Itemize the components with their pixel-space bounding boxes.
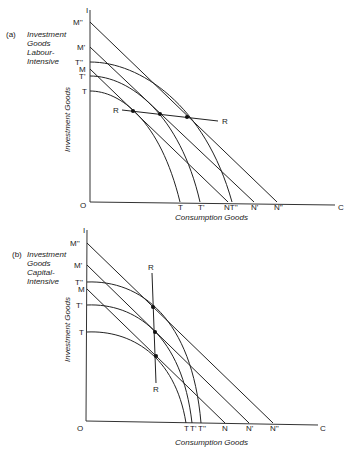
panel-a-tangency-3 xyxy=(185,115,189,119)
panel-b-tangency-3 xyxy=(154,354,158,358)
panel-b-label-M2: M'' xyxy=(70,239,80,248)
panel-a-ray-left-label: R xyxy=(113,106,119,115)
panel-b-label-xN2: N'' xyxy=(270,424,279,433)
panel-a-label-M2: M'' xyxy=(73,18,83,27)
panel-b-label-T0: T xyxy=(79,328,84,337)
panel-b-ray-top-label: R xyxy=(148,263,154,272)
panel-b-caption-3: Capital- xyxy=(27,268,55,277)
panel-b-ray-bottom-label: R xyxy=(153,385,159,394)
panel-b-ray-R xyxy=(152,273,156,383)
panel-b-curve-T0 xyxy=(87,332,186,423)
panel-a-label-xN2: N'' xyxy=(274,203,283,212)
panel-b-label-M1: M' xyxy=(74,261,83,270)
panel-a-ray-right-label: R xyxy=(222,117,228,126)
panel-b-x-end-label: C xyxy=(320,424,326,433)
panel-a-tag: (a) xyxy=(6,30,16,39)
panel-b-origin: O xyxy=(77,424,83,433)
panel-b-label-xT1: T' xyxy=(190,424,197,433)
panel-a-label-T0: T xyxy=(82,87,87,96)
panel-b-tag: (b) xyxy=(12,250,22,259)
panel-a-ray-R xyxy=(122,110,218,121)
panel-b: (b) Investment Goods Capital- Intensive … xyxy=(12,226,326,447)
panel-b-label-xT0: T xyxy=(184,424,189,433)
panel-a-tangency-1 xyxy=(131,109,135,113)
panel-b-y-top-label: I xyxy=(83,226,85,235)
panel-a-curve-T1 xyxy=(90,76,200,202)
panel-b-label-xN1: N' xyxy=(246,424,254,433)
panel-a-label-xT0: T xyxy=(178,203,183,212)
panel-a: (a) Investment Goods Labour- Intensive I… xyxy=(6,6,344,222)
panel-a-label-T1: T' xyxy=(79,72,86,81)
panel-a-caption-4: Intensive xyxy=(27,57,60,66)
panel-b-caption-2: Goods xyxy=(27,259,51,268)
panel-b-curve-T2 xyxy=(87,282,201,423)
panel-a-line-M1N1 xyxy=(90,47,254,202)
panel-b-y-axis-label: Investment Goods xyxy=(63,297,72,362)
panel-b-line-M1N1 xyxy=(87,265,249,423)
panel-a-tangency-2 xyxy=(158,112,162,116)
panel-a-caption-2: Goods xyxy=(27,39,51,48)
panel-b-line-M2N2 xyxy=(87,243,273,423)
diagram-canvas: (a) Investment Goods Labour- Intensive I… xyxy=(0,0,351,462)
panel-b-tangency-2 xyxy=(153,330,157,334)
panel-a-curve-T0 xyxy=(90,91,180,202)
panel-a-origin: O xyxy=(80,201,86,210)
panel-b-tangency-1 xyxy=(151,305,155,309)
panel-a-x-end-label: C xyxy=(338,203,344,212)
panel-b-x-axis-label: Consumption Goods xyxy=(175,438,248,447)
panel-b-caption-1: Investment xyxy=(27,250,67,259)
panel-a-y-top-label: I xyxy=(86,6,88,15)
panel-b-curve-T1 xyxy=(87,305,192,423)
panel-a-label-xN1: N' xyxy=(251,203,259,212)
panel-b-label-M0: M xyxy=(78,285,85,294)
panel-a-x-axis-label: Consumption Goods xyxy=(175,213,248,222)
panel-b-label-xN0: N xyxy=(222,424,228,433)
panel-b-caption-4: Intensive xyxy=(27,277,60,286)
panel-b-y-axis xyxy=(86,230,87,421)
panel-a-caption-1: Investment xyxy=(27,30,67,39)
panel-a-curve-T2 xyxy=(90,62,232,202)
panel-a-label-xT1: T' xyxy=(198,203,205,212)
panel-a-y-axis-label: Investment Goods xyxy=(63,87,72,152)
panel-a-label-M1: M' xyxy=(77,43,86,52)
panel-b-label-xT2: T'' xyxy=(198,424,206,433)
panel-a-label-xNT2: NT'' xyxy=(224,203,238,212)
panel-a-caption-3: Labour- xyxy=(27,48,55,57)
panel-a-x-axis xyxy=(90,202,335,205)
panel-b-label-T1: T' xyxy=(76,301,83,310)
